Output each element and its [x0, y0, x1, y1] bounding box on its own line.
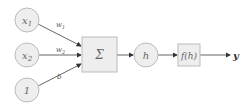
- weight-label-b: b: [57, 73, 62, 81]
- activation-node: f(h): [178, 44, 200, 66]
- input-node-bias: 1: [15, 78, 39, 102]
- svg-text:f(h): f(h): [180, 51, 198, 61]
- svg-text:Σ: Σ: [94, 48, 104, 62]
- svg-text:1: 1: [24, 85, 30, 96]
- weight-label-w2: w2: [56, 46, 65, 55]
- input-node-x2: x2: [15, 43, 39, 67]
- sum-node: Σ: [82, 37, 117, 72]
- weight-label-w1: w1: [56, 21, 65, 30]
- hidden-node-h: h: [134, 43, 158, 67]
- output-label-y: y: [232, 50, 240, 61]
- input-node-x1: x1: [15, 8, 39, 32]
- perceptron-diagram: w1 w2 b x1 x2 1 Σ h f(h) y: [0, 0, 250, 108]
- svg-text:h: h: [143, 50, 149, 61]
